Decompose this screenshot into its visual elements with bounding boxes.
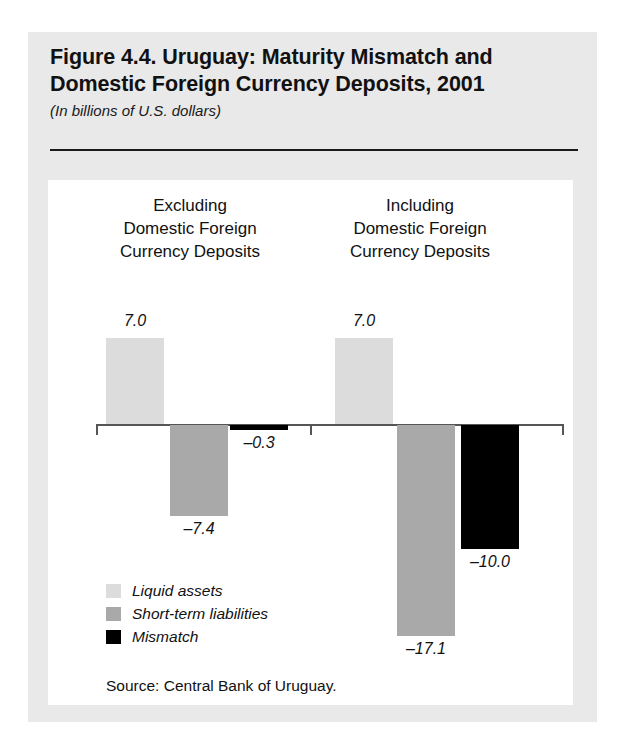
bar-including-short-term-liabilities (397, 425, 455, 636)
axis-tick-left (96, 424, 98, 435)
bar-including-liquid-assets (335, 338, 393, 424)
bar-including-mismatch (461, 425, 519, 549)
figure-panel: Figure 4.4. Uruguay: Maturity Mismatch a… (28, 32, 597, 722)
bar-label-excluding-mismatch: –0.3 (217, 434, 301, 452)
legend-item-short-term-liabilities: Short-term liabilities (106, 603, 268, 624)
legend-label-mismatch: Mismatch (132, 628, 198, 646)
axis-tick-right (562, 424, 564, 435)
group-header-including-line-3: Currency Deposits (300, 240, 540, 263)
bar-label-including-mismatch: –10.0 (448, 553, 532, 571)
group-header-excluding-line-2: Domestic Foreign (70, 217, 310, 240)
group-header-including: Including Domestic Foreign Currency Depo… (300, 194, 540, 263)
title-divider-rule (50, 149, 578, 151)
source-note: Source: Central Bank of Uruguay. (106, 677, 337, 695)
legend-swatch-mismatch (106, 630, 121, 644)
chart-legend: Liquid assets Short-term liabilities Mis… (106, 580, 268, 649)
legend-swatch-liquid-assets (106, 584, 121, 598)
bar-excluding-liquid-assets (106, 338, 164, 424)
legend-swatch-short-term-liabilities (106, 607, 121, 621)
figure-title-line-2: Domestic Foreign Currency Deposits, 2001 (50, 71, 578, 98)
group-header-excluding-line-1: Excluding (70, 194, 310, 217)
group-header-excluding-line-3: Currency Deposits (70, 240, 310, 263)
figure-title-line-1: Figure 4.4. Uruguay: Maturity Mismatch a… (50, 44, 578, 71)
figure-title-block: Figure 4.4. Uruguay: Maturity Mismatch a… (50, 44, 578, 121)
plot-area: Excluding Domestic Foreign Currency Depo… (48, 180, 573, 705)
bar-label-including-short-term-liabilities: –17.1 (384, 640, 468, 658)
legend-item-mismatch: Mismatch (106, 626, 268, 647)
legend-label-short-term-liabilities: Short-term liabilities (132, 605, 268, 623)
bar-label-including-liquid-assets: 7.0 (322, 312, 406, 330)
axis-tick-middle (310, 424, 312, 435)
bar-excluding-mismatch (230, 425, 288, 430)
figure-subtitle: (In billions of U.S. dollars) (50, 100, 578, 121)
legend-item-liquid-assets: Liquid assets (106, 580, 268, 601)
bar-label-excluding-liquid-assets: 7.0 (93, 312, 177, 330)
bar-label-excluding-short-term-liabilities: –7.4 (157, 520, 241, 538)
group-header-including-line-2: Domestic Foreign (300, 217, 540, 240)
group-header-including-line-1: Including (300, 194, 540, 217)
group-header-excluding: Excluding Domestic Foreign Currency Depo… (70, 194, 310, 263)
legend-label-liquid-assets: Liquid assets (132, 582, 222, 600)
